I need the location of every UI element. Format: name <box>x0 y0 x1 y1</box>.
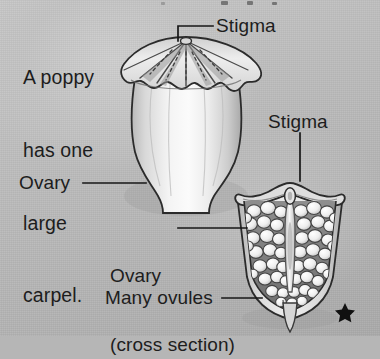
label-ovary: Ovary <box>19 171 70 194</box>
corner-star-icon <box>335 303 355 322</box>
caption-line-2: has one <box>23 138 94 162</box>
page-top-crop-marks <box>161 1 277 5</box>
label-many-ovules: Many ovules <box>105 286 213 309</box>
label-stigma-cross-section: Stigma <box>268 110 328 133</box>
caption-line-3: large <box>23 211 94 235</box>
whole-carpel-illustration <box>121 37 261 216</box>
label-ovary-cross-line-2: (cross section) <box>110 333 235 356</box>
label-ovary-cross-line-1: Ovary <box>110 264 235 287</box>
stigma-center-boss <box>181 38 192 45</box>
caption-line-4: carpel. <box>23 283 94 307</box>
cross-section-illustration <box>235 183 345 332</box>
central-column <box>285 196 295 292</box>
caption-line-1: A poppy <box>23 65 94 89</box>
label-stigma-whole-carpel: Stigma <box>216 14 276 37</box>
